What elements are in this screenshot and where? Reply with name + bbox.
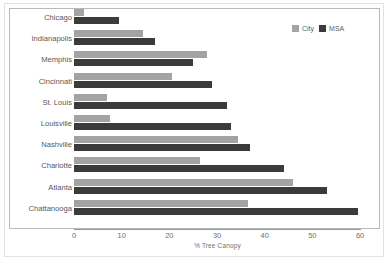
- bar-msa-louisville: [74, 123, 231, 130]
- bar-group: [74, 179, 360, 195]
- x-tick-60: 60: [345, 231, 375, 240]
- bar-city-indianapolis: [74, 30, 143, 37]
- x-tick-20: 20: [154, 231, 184, 240]
- bar-city-atlanta: [74, 179, 293, 186]
- bar-msa-cincinnati: [74, 81, 212, 88]
- bar-msa-charlotte: [74, 165, 284, 172]
- x-tick-30: 30: [202, 231, 232, 240]
- bar-group: [74, 51, 360, 67]
- legend-swatch-city-icon: [292, 25, 299, 32]
- bar-group: [74, 94, 360, 110]
- bar-msa-memphis: [74, 59, 193, 66]
- bar-group: [74, 73, 360, 89]
- x-tick-0: 0: [59, 231, 89, 240]
- bar-msa-st-louis: [74, 102, 227, 109]
- x-tick-10: 10: [107, 231, 137, 240]
- bar-city-cincinnati: [74, 73, 172, 80]
- chart-legend: City MSA: [292, 25, 344, 32]
- plot-area: [74, 9, 360, 229]
- tree-canopy-bar-chart: ChicagoIndianapolisMemphisCincinnatiSt. …: [0, 0, 388, 261]
- bar-msa-nashville: [74, 144, 250, 151]
- x-axis-title: % Tree Canopy: [74, 242, 361, 249]
- bar-city-chicago: [74, 9, 84, 16]
- x-tick-50: 50: [297, 231, 327, 240]
- bar-city-charlotte: [74, 157, 200, 164]
- bar-group: [74, 157, 360, 173]
- bar-msa-atlanta: [74, 187, 327, 194]
- legend-label-msa: MSA: [329, 25, 344, 32]
- bar-group: [74, 30, 360, 46]
- bar-city-st-louis: [74, 94, 107, 101]
- bar-group: [74, 200, 360, 216]
- legend-entry-city: City: [292, 25, 314, 32]
- bar-city-louisville: [74, 115, 110, 122]
- bar-msa-indianapolis: [74, 38, 155, 45]
- bar-city-nashville: [74, 136, 238, 143]
- bar-msa-chicago: [74, 17, 119, 24]
- bar-city-chattanooga: [74, 200, 248, 207]
- bar-group: [74, 9, 360, 25]
- x-axis-line: [74, 229, 361, 230]
- legend-label-city: City: [302, 25, 314, 32]
- bar-group: [74, 115, 360, 131]
- bar-city-memphis: [74, 51, 207, 58]
- bar-msa-chattanooga: [74, 208, 358, 215]
- legend-swatch-msa-icon: [319, 25, 326, 32]
- legend-entry-msa: MSA: [319, 25, 344, 32]
- x-tick-40: 40: [250, 231, 280, 240]
- bar-group: [74, 136, 360, 152]
